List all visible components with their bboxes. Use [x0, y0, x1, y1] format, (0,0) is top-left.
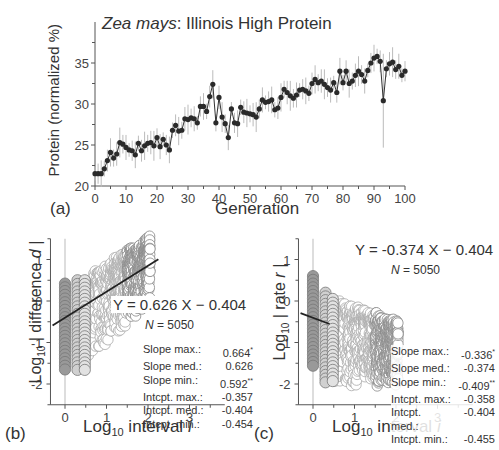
- stats-row: Intcpt. min.:-0.454: [143, 418, 253, 432]
- stats-label: Slope med.:: [391, 362, 450, 376]
- svg-text:20: 20: [75, 179, 89, 194]
- svg-text:20: 20: [150, 191, 164, 206]
- svg-text:25: 25: [75, 138, 89, 153]
- svg-text:80: 80: [336, 191, 350, 206]
- panel-c-n: N = 5050: [391, 263, 440, 277]
- svg-text:30: 30: [181, 191, 195, 206]
- stats-label: Intcpt. max.:: [143, 391, 203, 405]
- svg-text:0: 0: [61, 410, 68, 425]
- panel-b-stats: Slope max.:0.664*Slope med.:0.626Slope m…: [143, 343, 253, 431]
- stats-row: Slope min.:0.592**: [143, 374, 253, 391]
- stats-row: Slope med.:-0.374: [391, 362, 495, 376]
- stats-row: Slope min.:-0.409**: [391, 376, 495, 393]
- stats-label: Slope max.:: [143, 343, 201, 360]
- panel-c-equation: Y = -0.374 X − 0.404: [355, 241, 493, 258]
- stats-label: Intcpt. max.:: [391, 393, 451, 407]
- panel-a-title-italic: Zea mays: [102, 14, 177, 33]
- stats-value: -0.454: [209, 418, 253, 432]
- panel-b-letter: (b): [5, 424, 26, 444]
- stats-row: Slope max.:0.664*: [143, 343, 253, 360]
- stats-row: Slope max.:-0.336*: [391, 345, 495, 362]
- stats-row: Intcpt. min.:-0.455: [391, 433, 495, 447]
- stats-row: Slope med.:0.626: [143, 360, 253, 374]
- stats-row: Intcpt. max.:-0.358: [391, 393, 495, 407]
- stats-label: Slope med.:: [143, 360, 202, 374]
- stats-value: -0.357: [209, 391, 253, 405]
- panel-a-ylabel: Protein (normalized %): [45, 37, 62, 177]
- svg-text:70: 70: [305, 191, 319, 206]
- stats-value: -0.404: [209, 404, 253, 418]
- stats-value: 0.592**: [209, 374, 253, 391]
- stats-label: Intcpt. min.:: [143, 418, 200, 432]
- stats-row: Intcpt. med.:-0.404: [143, 404, 253, 418]
- svg-text:0: 0: [91, 191, 98, 206]
- stats-value: -0.409**: [451, 376, 495, 393]
- stats-value: -0.358: [451, 393, 495, 407]
- panel-c-letter: (c): [254, 424, 274, 444]
- panel-a-title: Zea mays: Illinois High Protein: [102, 14, 332, 34]
- stats-label: Intcpt. med.:: [391, 406, 451, 433]
- svg-text:10: 10: [119, 191, 133, 206]
- panel-a-xlabel: Generation: [215, 199, 299, 219]
- stats-value: -0.374: [451, 362, 495, 376]
- svg-text:100: 100: [394, 191, 416, 206]
- panel-a-letter: (a): [50, 199, 71, 219]
- stats-label: Slope min.:: [143, 374, 198, 391]
- stats-value: 0.626: [209, 360, 253, 374]
- stats-label: Intcpt. min.:: [391, 433, 448, 447]
- stats-value: -0.336*: [451, 345, 495, 362]
- stats-value: 0.664*: [209, 343, 253, 360]
- stats-label: Intcpt. med.:: [143, 404, 204, 418]
- panel-c-stats: Slope max.:-0.336*Slope med.:-0.374Slope…: [391, 345, 495, 447]
- panel-c-ylabel: Log10 | rate r |: [271, 237, 291, 387]
- panel-b-n: N = 5050: [145, 318, 194, 332]
- panel-b-equation: Y = 0.626 X − 0.404: [111, 296, 248, 313]
- svg-text:90: 90: [367, 191, 381, 206]
- stats-row: Intcpt. max.:-0.357: [143, 391, 253, 405]
- panel-a-title-rest: : Illinois High Protein: [177, 14, 332, 33]
- stats-row: Intcpt. med.:-0.404: [391, 406, 495, 433]
- panel-b-ylabel: Log10 | difference d |: [27, 237, 47, 387]
- stats-value: -0.455: [451, 433, 495, 447]
- panel-a-plot: 202530350102030405060708090100: [75, 22, 416, 206]
- svg-text:0: 0: [309, 410, 316, 425]
- svg-text:35: 35: [75, 56, 89, 71]
- svg-text:30: 30: [75, 97, 89, 112]
- stats-value: -0.404: [451, 406, 495, 433]
- stats-label: Slope max.:: [391, 345, 449, 362]
- stats-label: Slope min.:: [391, 376, 446, 393]
